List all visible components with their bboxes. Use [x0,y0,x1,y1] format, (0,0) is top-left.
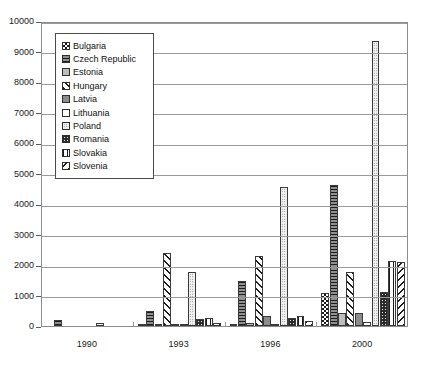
legend-item-latvia[interactable]: Latvia [62,93,149,106]
legend-swatch-icon [62,55,70,63]
legend-swatch-icon [62,68,70,76]
legend-swatch-icon [62,42,70,50]
y-axis-tick-label: 1000 [0,292,34,301]
bar-hungary-1993 [163,253,171,326]
bar-romania-1993 [196,319,204,326]
bar-lithuania-2000 [363,322,371,326]
gridline [42,236,407,237]
bar-slovakia-2000 [388,261,396,326]
bar-hungary-2000 [346,272,354,326]
legend-item-label: Hungary [73,81,107,91]
legend-item-label: Czech Republic [73,54,136,64]
x-axis-tick-label: 1990 [41,339,133,349]
legend-item-slovakia[interactable]: Slovakia [62,146,149,159]
bar-chart: 0100020003000400050006000700080009000100… [0,0,435,365]
legend-swatch-icon [62,162,70,170]
legend-swatch-icon [62,109,70,117]
legend-item-bulgaria[interactable]: Bulgaria [62,39,149,52]
gridline [42,206,407,207]
bar-bulgaria-1993 [138,324,146,326]
y-axis-tick-label: 2000 [0,261,34,270]
legend-swatch-icon [62,82,70,90]
bar-poland-1996 [280,187,288,326]
bar-czech-republic-1996 [238,281,246,326]
y-axis-tick-label: 7000 [0,109,34,118]
x-axis-tick-label: 2000 [316,339,408,349]
legend: BulgariaCzech RepublicEstoniaHungaryLatv… [55,33,154,179]
y-axis-tick-label: 10000 [0,17,34,26]
bar-estonia-1993 [155,324,163,326]
legend-item-label: Bulgaria [73,41,106,51]
y-axis-tick-label: 8000 [0,78,34,87]
y-axis-tick-label: 0 [0,322,34,331]
legend-swatch-icon [62,149,70,157]
legend-item-label: Estonia [73,67,103,77]
bar-estonia-2000 [338,313,346,326]
bar-latvia-2000 [355,313,363,326]
bar-bulgaria-2000 [321,293,329,326]
bar-slovakia-1993 [205,318,213,326]
legend-item-label: Slovakia [73,148,107,158]
bar-lithuania-1996 [271,324,279,326]
legend-item-label: Lithuania [73,108,110,118]
bar-czech-republic-1993 [146,311,154,326]
bar-lithuania-1993 [180,324,188,326]
bar-czech-republic-1990 [54,320,62,326]
bar-slovenia-2000 [397,262,405,326]
gridline [42,23,407,24]
bar-bulgaria-1996 [230,324,238,326]
legend-swatch-icon [62,135,70,143]
gridline [42,297,407,298]
x-axis-separator [225,322,226,327]
y-axis-tick-label: 3000 [0,231,34,240]
y-axis-tick-label: 4000 [0,200,34,209]
bar-latvia-1993 [171,324,179,326]
x-axis-tick-label: 1996 [225,339,317,349]
bar-romania-1996 [288,318,296,326]
legend-item-slovenia[interactable]: Slovenia [62,160,149,173]
y-axis-tick-label: 5000 [0,170,34,179]
bar-poland-1993 [188,272,196,326]
legend-item-label: Poland [73,121,101,131]
legend-item-lithuania[interactable]: Lithuania [62,106,149,119]
bar-poland-1990 [96,323,104,326]
legend-swatch-icon [62,95,70,103]
gridline [42,267,407,268]
x-axis-tick-label: 1993 [133,339,225,349]
y-axis-tick-label: 6000 [0,139,34,148]
x-axis-separator [133,322,134,327]
legend-item-label: Romania [73,134,109,144]
legend-item-estonia[interactable]: Estonia [62,66,149,79]
bar-latvia-1996 [263,316,271,326]
legend-item-hungary[interactable]: Hungary [62,79,149,92]
legend-item-romania[interactable]: Romania [62,133,149,146]
bar-slovenia-1993 [213,323,221,326]
y-axis-tick-label: 9000 [0,48,34,57]
bar-estonia-1996 [246,323,254,326]
legend-item-poland[interactable]: Poland [62,119,149,132]
legend-swatch-icon [62,122,70,130]
legend-item-label: Slovenia [73,161,108,171]
legend-item-label: Latvia [73,94,97,104]
bar-slovakia-1996 [297,316,305,326]
x-axis-separator [316,322,317,327]
legend-item-czech-republic[interactable]: Czech Republic [62,52,149,65]
bar-slovenia-1996 [305,321,313,326]
